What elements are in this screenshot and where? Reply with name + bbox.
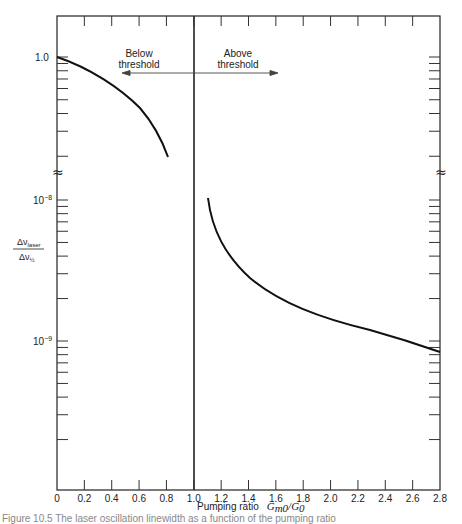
arrow-left-icon — [122, 71, 130, 76]
threshold-arrow — [122, 71, 278, 76]
arrow-right-icon — [270, 71, 278, 76]
x-tick-label: 0.4 — [105, 493, 119, 504]
below-threshold-label-2: threshold — [118, 59, 159, 70]
below-threshold-label-1: Below — [125, 48, 153, 59]
below-threshold-curve — [57, 57, 168, 157]
y-axis-label: Δνlaser Δν½ — [13, 237, 44, 263]
axis-break-left: ≈ — [52, 164, 64, 180]
above-threshold-curve — [208, 198, 440, 352]
figure-caption: Figure 10.5 The laser oscillation linewi… — [2, 513, 460, 524]
above-threshold-label-2: threshold — [217, 59, 258, 70]
y-tick-label-1: 1.0 — [35, 52, 49, 63]
x-tick-label: 0.2 — [77, 493, 91, 504]
y-tick-label-1e-9: 10−9 — [33, 335, 52, 347]
right-y-ticks — [429, 57, 440, 440]
svg-text:Δνlaser: Δνlaser — [17, 237, 41, 248]
y-tick-label-1e-8: 10−8 — [33, 194, 52, 206]
chart-svg: ≈ ≈ 1.0 10−8 10−9 Δνlaser Δν½ 00.20.40.6… — [0, 0, 462, 524]
x-tick-label: 0 — [54, 493, 60, 504]
svg-text:Δν½: Δν½ — [19, 252, 35, 263]
x-tick-label: 2.8 — [433, 493, 447, 504]
above-threshold-label-1: Above — [224, 48, 253, 59]
x-tick-label: 2.6 — [406, 493, 420, 504]
axis-break-right: ≈ — [435, 164, 447, 180]
x-tick-label: 2.4 — [378, 493, 392, 504]
left-y-ticks — [57, 57, 68, 440]
x-tick-label: 0.6 — [132, 493, 146, 504]
x-tick-label: 0.8 — [159, 493, 173, 504]
x-tick-label: 2.0 — [324, 493, 338, 504]
x-tick-label: 2.2 — [351, 493, 365, 504]
x-axis-label: Pumping ratioGm0/G0 — [197, 500, 305, 514]
x-axis-ticks — [84, 16, 412, 490]
